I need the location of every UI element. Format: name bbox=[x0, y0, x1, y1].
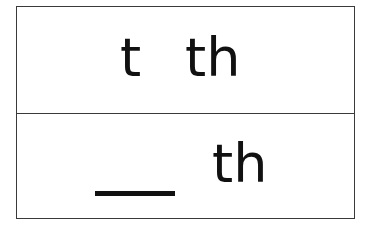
bottom-digraph-th: th bbox=[212, 137, 267, 191]
row-divider bbox=[17, 113, 354, 114]
top-letter-t: t bbox=[120, 31, 141, 85]
phonics-card: t th th bbox=[16, 6, 355, 219]
top-digraph-th: th bbox=[185, 31, 240, 85]
fill-in-blank-line bbox=[95, 191, 175, 196]
